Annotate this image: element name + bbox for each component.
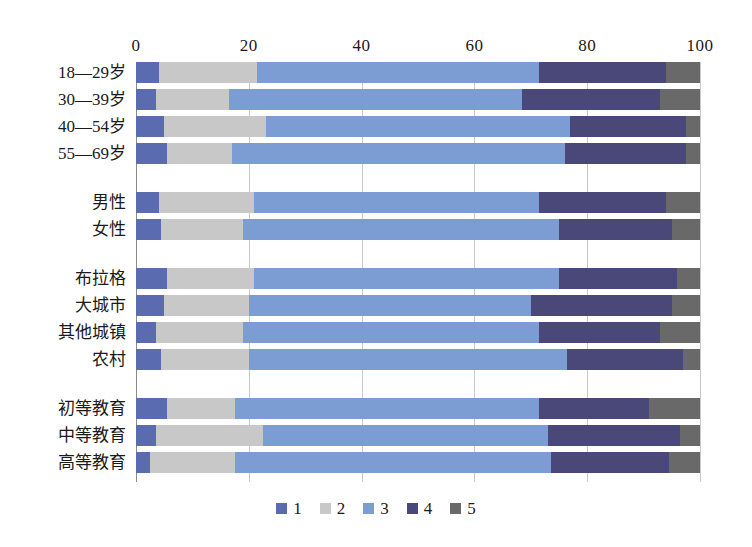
legend-label-1: 1 <box>293 500 302 517</box>
y-category-label: 农村 <box>92 349 126 370</box>
bar-segment-series-3 <box>229 89 522 110</box>
x-tick-label-80: 80 <box>578 36 596 56</box>
bar-row <box>136 398 700 419</box>
legend-label-2: 2 <box>337 500 346 517</box>
bar-segment-series-2 <box>164 116 266 137</box>
stacked-bar <box>136 89 700 110</box>
bar-segment-series-1 <box>136 219 161 240</box>
bar-segment-series-1 <box>136 62 159 83</box>
bar-segment-series-4 <box>559 268 677 289</box>
legend-item-1[interactable]: 1 <box>276 500 302 517</box>
bar-row <box>136 349 700 370</box>
bar-segment-series-3 <box>254 268 559 289</box>
y-category-label: 中等教育 <box>58 425 126 446</box>
bar-segment-series-3 <box>249 295 531 316</box>
bar-segment-series-4 <box>522 89 660 110</box>
bar-segment-series-3 <box>235 398 540 419</box>
y-category-label: 高等教育 <box>58 452 126 473</box>
bar-segment-series-1 <box>136 295 164 316</box>
x-tick-label-60: 60 <box>465 36 483 56</box>
bar-segment-series-1 <box>136 425 156 446</box>
bar-segment-series-4 <box>539 192 666 213</box>
stacked-bar <box>136 268 700 289</box>
bar-segment-series-5 <box>660 322 699 343</box>
legend-item-4[interactable]: 4 <box>407 500 433 517</box>
y-category-label: 其他城镇 <box>58 322 126 343</box>
bar-segment-series-4 <box>539 62 666 83</box>
bar-segment-series-4 <box>539 398 649 419</box>
legend-item-3[interactable]: 3 <box>363 500 389 517</box>
bar-segment-series-4 <box>567 349 683 370</box>
x-tick-label-20: 20 <box>240 36 258 56</box>
stacked-bar <box>136 322 700 343</box>
bar-segment-series-2 <box>159 62 258 83</box>
bar-segment-series-1 <box>136 89 156 110</box>
bar-segment-series-1 <box>136 452 150 473</box>
stacked-bar <box>136 425 700 446</box>
y-axis-category-labels: 18—29岁30—39岁40—54岁55—69岁男性女性布拉格大城市其他城镇农村… <box>0 62 130 482</box>
stacked-bar <box>136 143 700 164</box>
legend-swatch-4 <box>407 503 418 514</box>
stacked-bar <box>136 295 700 316</box>
bar-segment-series-1 <box>136 116 164 137</box>
legend-label-3: 3 <box>380 500 389 517</box>
y-category-label: 55—69岁 <box>58 143 126 164</box>
bar-row <box>136 295 700 316</box>
legend-label-5: 5 <box>467 500 476 517</box>
chart-legend: 12345 <box>0 500 752 517</box>
bar-segment-series-5 <box>666 62 700 83</box>
bar-segment-series-5 <box>677 268 700 289</box>
bar-segment-series-5 <box>686 143 700 164</box>
legend-label-4: 4 <box>424 500 433 517</box>
bar-segment-series-1 <box>136 143 167 164</box>
legend-swatch-5 <box>450 503 461 514</box>
legend-swatch-3 <box>363 503 374 514</box>
bar-segment-series-1 <box>136 398 167 419</box>
bar-segment-series-2 <box>159 192 255 213</box>
bar-row <box>136 192 700 213</box>
y-category-label: 初等教育 <box>58 398 126 419</box>
bar-segment-series-2 <box>164 295 249 316</box>
bar-segment-series-2 <box>161 349 248 370</box>
bar-row <box>136 268 700 289</box>
legend-item-5[interactable]: 5 <box>450 500 476 517</box>
bar-segment-series-4 <box>570 116 686 137</box>
bar-segment-series-2 <box>167 268 254 289</box>
x-tick-label-0: 0 <box>132 36 141 56</box>
bar-segment-series-4 <box>559 219 672 240</box>
bar-row <box>136 219 700 240</box>
stacked-bar <box>136 452 700 473</box>
bar-segment-series-3 <box>254 192 539 213</box>
bar-segment-series-4 <box>531 295 672 316</box>
bar-segment-series-5 <box>686 116 700 137</box>
bar-segment-series-3 <box>263 425 548 446</box>
stacked-bar <box>136 219 700 240</box>
bar-row <box>136 62 700 83</box>
bar-segment-series-2 <box>156 425 263 446</box>
legend-item-2[interactable]: 2 <box>320 500 346 517</box>
bar-segment-series-4 <box>551 452 669 473</box>
bar-segment-series-2 <box>167 398 235 419</box>
bar-segment-series-3 <box>257 62 539 83</box>
stacked-bar <box>136 349 700 370</box>
bar-segment-series-5 <box>660 89 699 110</box>
gridline-100 <box>700 62 701 482</box>
bar-segment-series-5 <box>672 219 700 240</box>
y-category-label: 30—39岁 <box>58 89 126 110</box>
y-category-label: 女性 <box>92 219 126 240</box>
bar-segment-series-2 <box>156 89 229 110</box>
stacked-bar <box>136 62 700 83</box>
bar-segment-series-3 <box>232 143 565 164</box>
bar-segment-series-3 <box>266 116 571 137</box>
bar-segment-series-3 <box>243 322 539 343</box>
plot-area <box>136 62 700 482</box>
bar-segment-series-1 <box>136 322 156 343</box>
y-category-label: 18—29岁 <box>58 62 126 83</box>
bar-segment-series-1 <box>136 349 161 370</box>
x-tick-label-40: 40 <box>353 36 371 56</box>
bar-row <box>136 322 700 343</box>
bar-row <box>136 116 700 137</box>
x-tick-label-100: 100 <box>687 36 714 56</box>
bar-segment-series-2 <box>150 452 235 473</box>
stacked-bar-chart: 020406080100 18—29岁30—39岁40—54岁55—69岁男性女… <box>0 0 752 547</box>
